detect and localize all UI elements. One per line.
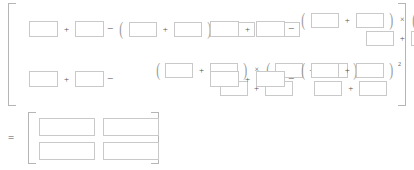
plus-operator: + — [346, 84, 355, 93]
plus-operator: + — [243, 75, 252, 84]
input-box[interactable] — [75, 71, 104, 87]
plus-operator: + — [343, 66, 352, 75]
answer-matrix-left-bracket — [28, 112, 36, 164]
input-box[interactable] — [165, 63, 193, 78]
cell-0-0-lead: + — [29, 19, 104, 37]
input-box[interactable] — [29, 21, 58, 37]
plus-operator: + — [343, 16, 352, 25]
expression-cell-0-1: + − ( + ) × ( + — [210, 3, 414, 53]
cell-0-1-lead: + — [210, 19, 285, 37]
minus-operator: − — [104, 73, 116, 84]
input-box[interactable] — [75, 21, 104, 37]
answer-input-box[interactable] — [39, 142, 95, 160]
fraction-numerator: ( + ) 2 — [116, 19, 225, 37]
input-box[interactable] — [29, 71, 58, 87]
fraction-denominator: + — [312, 77, 389, 95]
plus-operator: + — [62, 25, 71, 34]
answer-cell-0-1 — [101, 116, 161, 138]
answer-cell-1-1 — [101, 140, 161, 162]
input-box[interactable] — [210, 71, 239, 87]
plus-operator: + — [243, 25, 252, 34]
worksheet-canvas: + − ( + ) 2 + — [0, 0, 414, 170]
cell-1-1-lead: + — [210, 69, 285, 87]
answer-input-box[interactable] — [103, 118, 159, 136]
answer-input-box[interactable] — [39, 118, 95, 136]
plus-operator: + — [398, 34, 407, 43]
plus-operator: + — [197, 66, 206, 75]
input-box[interactable] — [311, 13, 339, 28]
answer-matrix — [28, 112, 158, 164]
exponent-two: 2 — [398, 61, 401, 67]
minus-operator: − — [285, 73, 297, 84]
expression-cell-1-1: + − ( + ) 2 + — [210, 53, 404, 103]
input-box[interactable] — [256, 21, 285, 37]
expression-cell-grid: + − ( + ) 2 + — [17, 3, 397, 106]
minus-operator: − — [104, 23, 116, 34]
input-box[interactable] — [311, 63, 339, 78]
plus-operator: + — [161, 25, 170, 34]
input-box[interactable] — [129, 22, 157, 37]
input-box[interactable] — [356, 13, 384, 28]
fraction-numerator: ( + ) 2 — [298, 60, 403, 78]
answer-input-box[interactable] — [103, 142, 159, 160]
fraction-0-1: ( + ) × ( + ) + — [297, 10, 414, 46]
cell-1-0-lead: + — [29, 69, 104, 87]
expression-matrix: + − ( + ) 2 + — [8, 3, 406, 106]
times-operator: × — [398, 16, 407, 24]
fraction-1-1: ( + ) 2 + — [297, 60, 404, 96]
minus-operator: − — [285, 23, 297, 34]
fraction-numerator: ( + ) × ( + ) — [298, 10, 414, 28]
matrix-left-bracket — [8, 3, 16, 106]
answer-cell-0-0 — [37, 116, 97, 138]
input-box[interactable] — [174, 22, 202, 37]
input-box[interactable] — [256, 71, 285, 87]
input-box[interactable] — [314, 81, 342, 96]
answer-cell-grid — [37, 116, 161, 162]
input-box[interactable] — [210, 21, 239, 37]
plus-operator: + — [62, 75, 71, 84]
input-box[interactable] — [359, 81, 387, 96]
input-box[interactable] — [366, 31, 394, 46]
equals-sign: = — [8, 132, 14, 143]
answer-cell-1-0 — [37, 140, 97, 162]
input-box[interactable] — [356, 63, 384, 78]
